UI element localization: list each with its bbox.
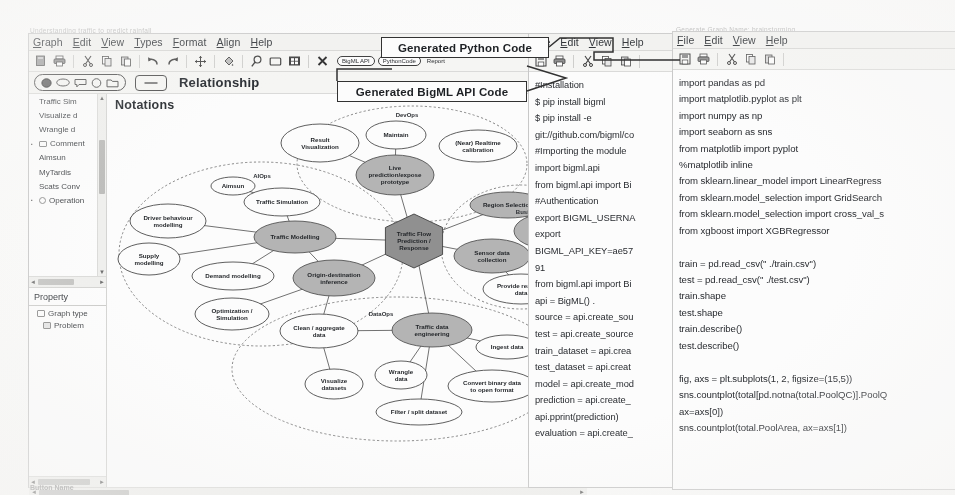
tree-vertical-scrollbar[interactable]: ▲ ▼ [97,94,106,276]
paste-icon[interactable] [617,53,634,69]
scroll-thumb[interactable] [99,140,105,194]
circle-icon[interactable] [91,78,102,88]
scroll-right-arrow[interactable]: ► [579,489,585,495]
menu-graph[interactable]: Graph [33,36,63,48]
scroll-right-arrow[interactable]: ► [99,279,105,285]
diagram-node[interactable]: Aimsun [211,177,255,195]
code-line: sns.countplot(total.PoolArea, ax=axs[1]) [679,420,952,436]
property-row-graph-type[interactable]: Graph type [29,306,106,318]
print-icon[interactable] [551,53,568,69]
diagram-node[interactable]: Visualizedatasets [305,369,363,399]
fit-icon[interactable] [286,53,303,69]
diagram-node[interactable]: Origin-destinationinference [293,260,375,296]
diagram-node[interactable]: Optimization /Simulation [195,298,269,330]
fill-icon[interactable] [220,53,237,69]
diagram-node[interactable]: Driver behaviourmodelling [130,204,206,238]
relationship-label: Relationship [179,75,259,90]
zoom-icon[interactable] [248,53,265,69]
bigml-code-text[interactable]: #Installation$ pip install bigml$ pip in… [529,72,677,487]
bigml-api-button[interactable]: BigML API [337,56,375,66]
tree-item[interactable]: Wrangle d [29,122,106,136]
diagram-node[interactable]: Liveprediction/exposeprototype [356,155,434,195]
paste-icon[interactable] [117,53,134,69]
diagram-node[interactable]: Traffic dataengineering [392,313,472,347]
scroll-right-arrow[interactable]: ► [99,479,105,485]
save-icon[interactable] [676,51,693,67]
cut-icon[interactable] [579,53,596,69]
graph-body: Traffic SimVisualize dWrangle d▪CommentA… [29,94,587,487]
tree-item[interactable]: ▪Comment [29,137,106,151]
diagram-node[interactable]: Wrangledata [375,361,427,389]
python-menu-edit[interactable]: Edit [704,34,723,46]
python-menu-view[interactable]: View [733,34,756,46]
python-code-text[interactable]: import pandas as pdimport matplotlib.pyp… [673,70,955,489]
diagram-node[interactable]: Demand modelling [192,262,274,290]
scroll-thumb[interactable] [38,279,74,285]
menu-format[interactable]: Format [173,36,207,48]
tree-horizontal-scrollbar[interactable]: ◄ ► [29,276,106,287]
diagram-node[interactable]: Filter / split dataset [376,399,462,425]
filled-ellipse-icon[interactable] [41,78,52,88]
copy-icon[interactable] [598,53,615,69]
tree-item[interactable]: ▪Operation [29,193,106,207]
expand-twisty-icon[interactable]: ▪ [31,197,33,203]
code-line: source = api.create_sou [535,309,673,326]
menu-align[interactable]: Align [217,36,241,48]
property-panel-body: Graph type Problem [29,306,106,476]
diagram-canvas[interactable]: Notations ResultVisualizationMaintain(Ne… [107,94,587,487]
redo-icon[interactable] [164,53,181,69]
copy-icon[interactable] [98,53,115,69]
close-icon[interactable] [314,53,331,69]
diagram-node[interactable]: Sensor datacollection [454,239,530,273]
menu-types[interactable]: Types [134,36,163,48]
paste-icon[interactable] [761,51,778,67]
print-icon[interactable] [695,51,712,67]
bigml-menu-view[interactable]: View [589,36,612,48]
expand-twisty-icon[interactable]: ▪ [31,141,33,147]
rounded-rect-icon[interactable] [74,78,87,88]
bigml-menu-help[interactable]: Help [622,36,644,48]
copy-icon[interactable] [742,51,759,67]
diagram-node[interactable]: (Near) Realtimecalibration [439,130,517,162]
tree-item[interactable]: Visualize d [29,108,106,122]
new-document-icon[interactable] [32,53,49,69]
move-icon[interactable] [192,53,209,69]
bigml-menu-edit[interactable]: Edit [560,36,579,48]
tree-scroll-area: Traffic SimVisualize dWrangle d▪CommentA… [29,94,106,276]
node-label: Traffic data [415,323,449,330]
relationship-tool[interactable] [135,75,167,91]
scroll-down-arrow[interactable]: ▼ [98,269,106,275]
tree-item[interactable]: MyTardis [29,165,106,179]
diagram-node[interactable]: Convert binary datato open format [448,370,536,402]
rectangle-icon[interactable] [267,53,284,69]
tree-item[interactable]: Scats Conv [29,179,106,193]
canvas-horizontal-scrollbar[interactable]: ◄ ► [29,487,587,495]
report-button[interactable]: Report [424,57,448,65]
tree-item[interactable]: Traffic Sim [29,94,106,108]
diagram-node[interactable]: Maintain [366,121,426,149]
cut-icon[interactable] [723,51,740,67]
print-icon[interactable] [51,53,68,69]
menu-help[interactable]: Help [250,36,272,48]
tree-item[interactable]: Aimsun [29,151,106,165]
diagram-node[interactable]: Traffic Modelling [254,221,336,253]
ellipse-icon[interactable] [56,78,70,87]
diagram-node[interactable]: Clean / aggregatedata [280,314,358,348]
scroll-left-arrow[interactable]: ◄ [30,279,36,285]
shape-tool-group [34,74,126,91]
tree-item-label: Wrangle d [39,125,75,134]
cut-icon[interactable] [79,53,96,69]
node-label: inference [320,278,348,285]
diagram-node[interactable]: ResultVisualization [281,124,359,162]
python-menu-help[interactable]: Help [766,34,788,46]
diagram-node[interactable]: Supplymodelling [118,243,180,275]
undo-icon[interactable] [145,53,162,69]
diagram-node[interactable]: Traffic Simulation [244,188,320,216]
property-row-problem[interactable]: Problem [29,318,106,330]
menu-edit[interactable]: Edit [73,36,92,48]
menu-view[interactable]: View [101,36,124,48]
code-line: evaluation = api.create_ [535,425,673,442]
folder-icon[interactable] [106,78,119,88]
scroll-up-arrow[interactable]: ▲ [98,95,106,101]
python-menu-file[interactable]: File [677,34,694,46]
